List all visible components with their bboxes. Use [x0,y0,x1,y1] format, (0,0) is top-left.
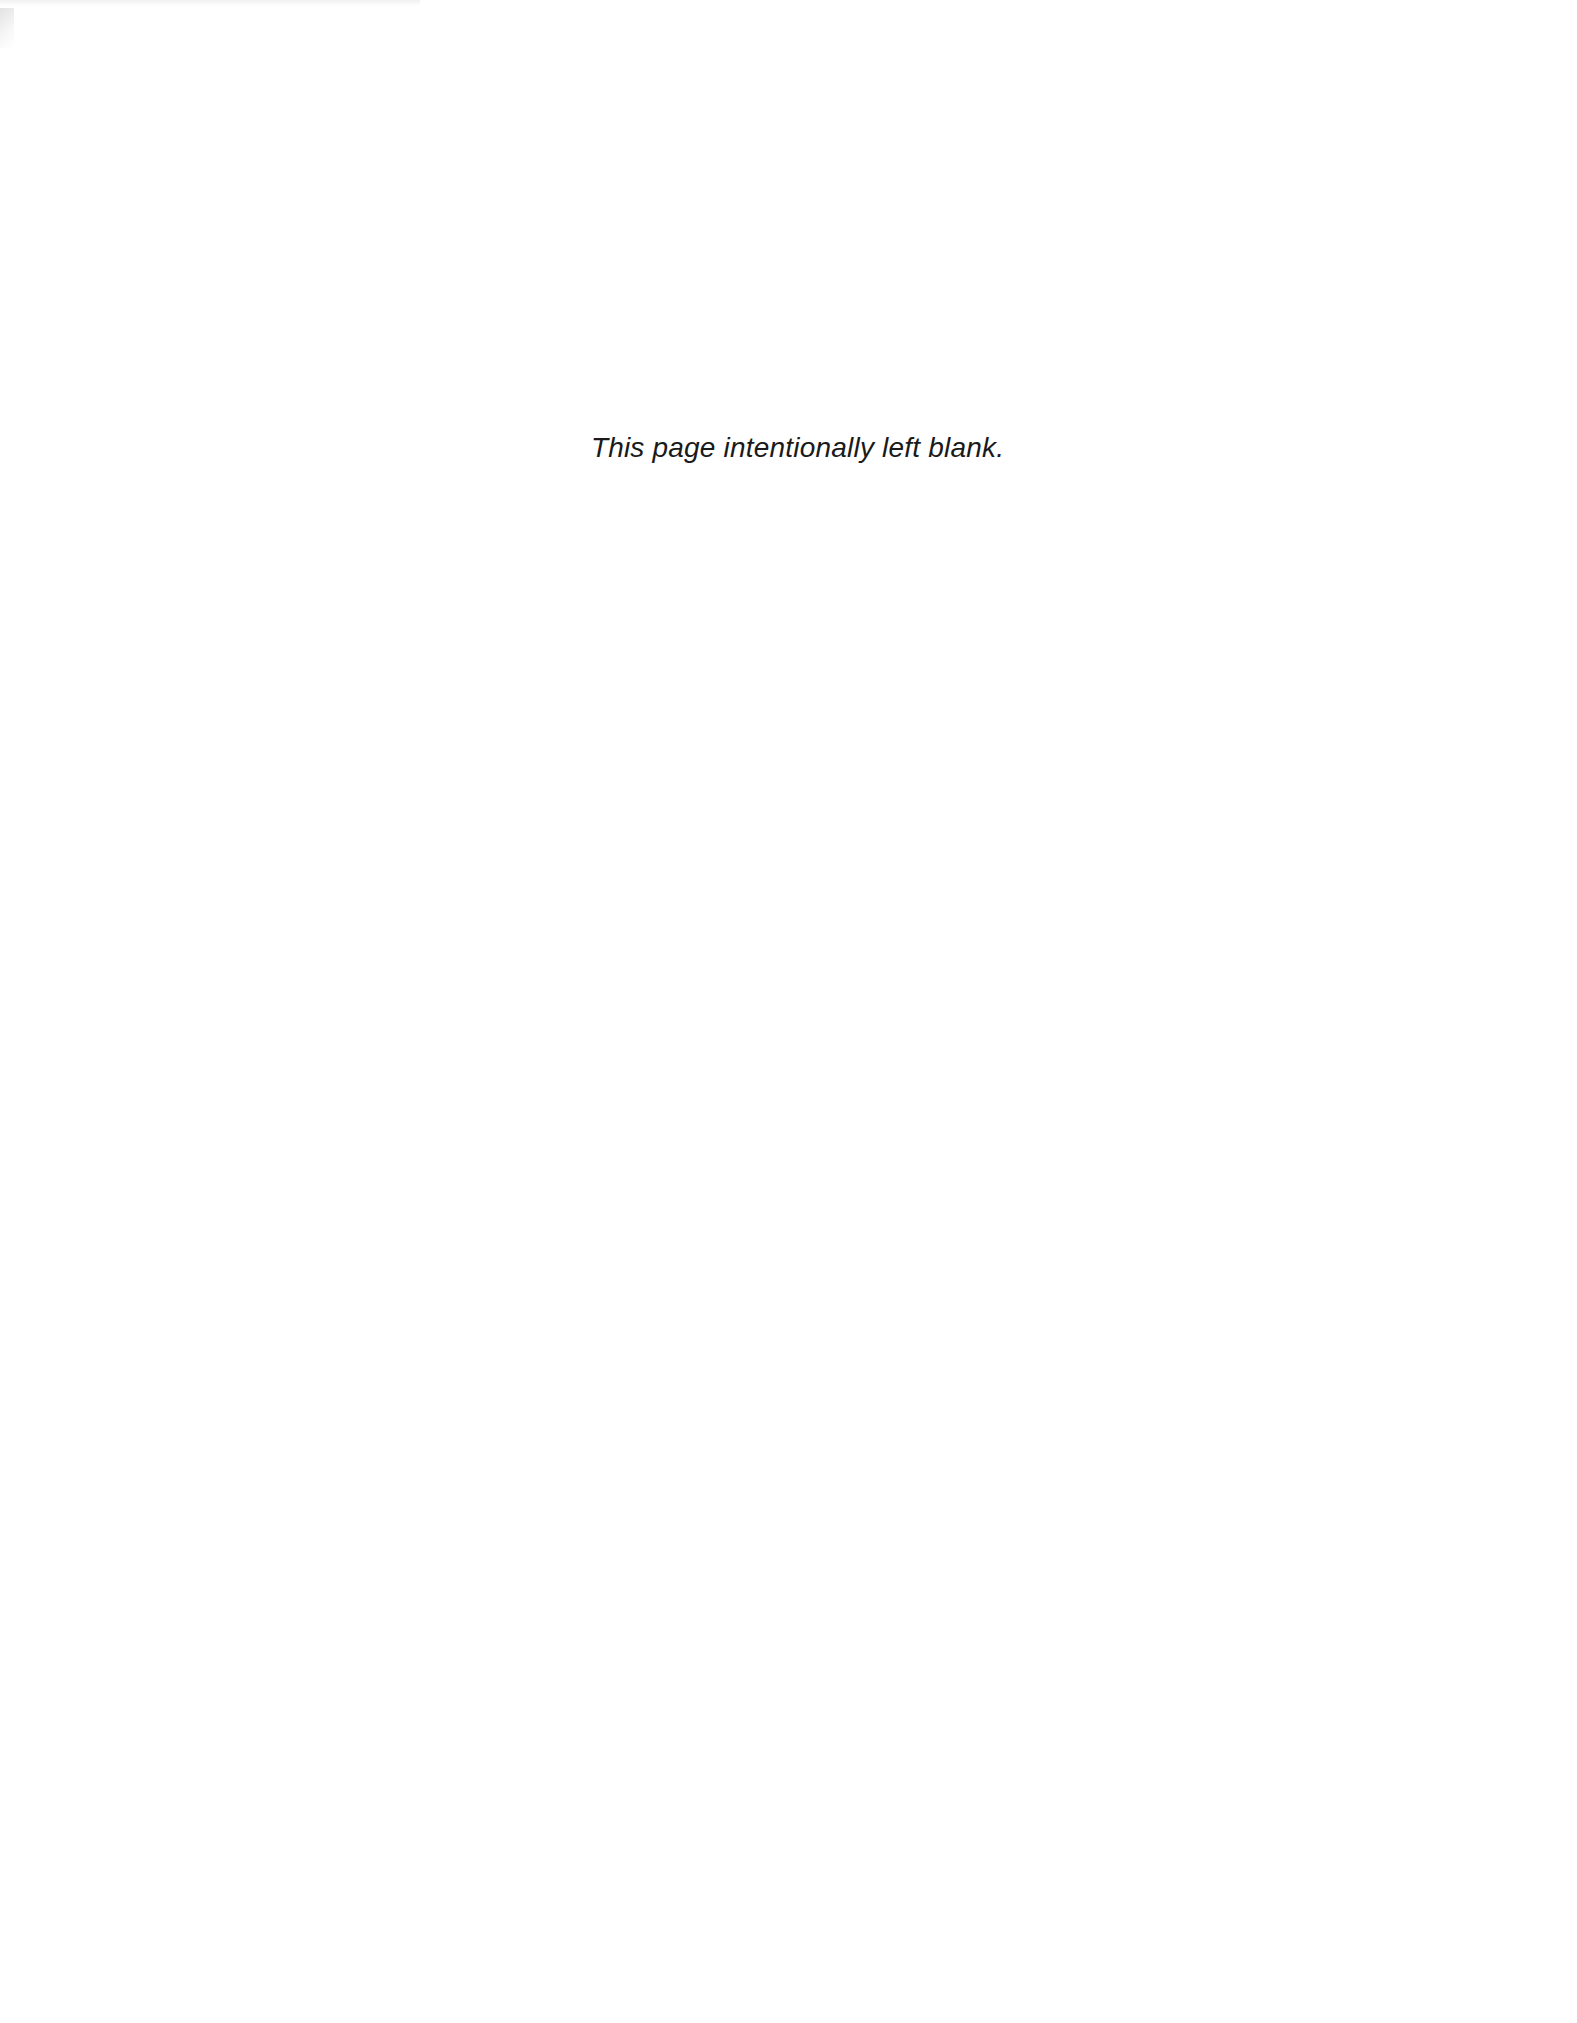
blank-page-notice: This page intentionally left blank. [0,432,1577,464]
scan-artifact-corner [0,8,14,48]
scan-artifact-top [0,0,420,6]
document-page: This page intentionally left blank. [0,0,1577,2023]
